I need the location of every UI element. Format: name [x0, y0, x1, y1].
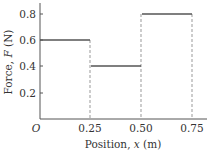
y-axis-label: Force, F (N) — [2, 30, 14, 95]
y-tick-label: 0.6 — [19, 34, 36, 46]
x-tick-label: 0.75 — [180, 122, 203, 134]
x-axis-label: Position, x (m) — [85, 138, 161, 150]
x-tick-label: 0.50 — [129, 122, 152, 134]
force-position-chart: 0.8 0.6 0.4 0.2 O 0.25 0.50 0.75 Positio… — [0, 0, 210, 151]
origin-label: O — [32, 122, 41, 134]
y-tick-label: 0.2 — [19, 87, 36, 99]
y-tick-label: 0.4 — [19, 60, 36, 72]
y-tick-label: 0.8 — [19, 8, 36, 20]
x-tick-label: 0.25 — [78, 122, 101, 134]
